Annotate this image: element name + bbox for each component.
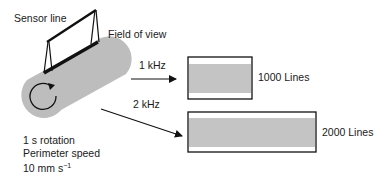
arrow-2khz	[101, 109, 182, 136]
image-1000-lines	[188, 57, 252, 99]
freq-2khz-label: 2 kHz	[133, 98, 160, 110]
rotation-label: 1 s rotation	[23, 134, 75, 146]
lines-2000-label: 2000 Lines	[322, 126, 373, 138]
perimeter-speed-label: Perimeter speed	[23, 147, 100, 159]
lines-1000-label: 1000 Lines	[258, 71, 309, 83]
field-of-view-label: Field of view	[108, 28, 166, 40]
freq-1khz-label: 1 kHz	[139, 59, 166, 71]
speed-value-label: 10 mm s−1	[23, 160, 71, 174]
sensor-line-label: Sensor line	[14, 12, 67, 24]
image-2000-lines	[188, 112, 316, 152]
rotating-cylinder	[21, 36, 131, 118]
